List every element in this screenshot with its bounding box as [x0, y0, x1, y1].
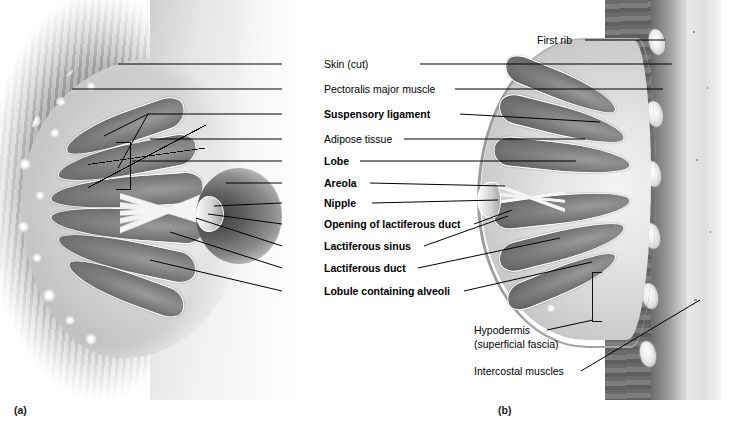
lobe-bracket-a [116, 142, 131, 190]
label-first-rib: First rib [537, 34, 572, 46]
label-opening-lactiferous-duct: Opening of lactiferous duct [324, 218, 461, 230]
nipple-b [477, 182, 501, 218]
label-lobe: Lobe [324, 155, 349, 167]
panel-b-caption: (b) [498, 404, 511, 416]
label-suspensory-ligament: Suspensory ligament [324, 108, 430, 120]
figure-canvas: Skin (cut) Pectoralis major muscle Suspe… [0, 0, 743, 428]
panel-a-illustration [0, 0, 300, 400]
label-hypodermis-subtitle: (superficial fascia) [474, 338, 559, 350]
label-adipose-tissue: Adipose tissue [324, 133, 392, 145]
label-nipple: Nipple [324, 197, 356, 209]
label-skin-cut: Skin (cut) [324, 58, 368, 70]
panel-a-caption: (a) [14, 404, 27, 416]
hypodermis-bracket-b [592, 272, 602, 322]
label-lobule-alveoli: Lobule containing alveoli [324, 285, 450, 297]
label-intercostal-muscles: Intercostal muscles [474, 365, 564, 377]
label-lactiferous-sinus: Lactiferous sinus [324, 240, 411, 252]
posterior-skin-b [687, 0, 721, 400]
label-pectoralis-major: Pectoralis major muscle [324, 83, 435, 95]
lactiferous-sinus-b [495, 164, 565, 232]
suspensory-ligament-pointer-a [88, 118, 206, 194]
label-areola: Areola [324, 177, 357, 189]
label-hypodermis: Hypodermis [474, 324, 530, 336]
label-lactiferous-duct: Lactiferous duct [324, 262, 406, 274]
